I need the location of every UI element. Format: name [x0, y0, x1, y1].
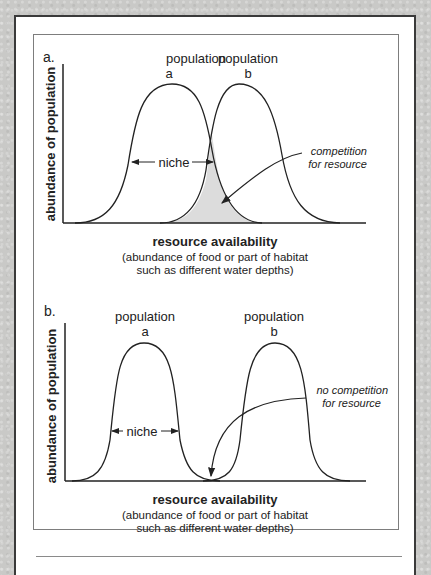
population-a-label: population	[115, 309, 175, 324]
x-axis-title: resource availability	[152, 234, 278, 249]
no-competition-annotation-line1: no competition	[316, 384, 388, 396]
x-axis-subtitle-line2: such as different water depths)	[136, 522, 293, 534]
population-a-letter: a	[141, 324, 149, 339]
x-axis-subtitle-line1: (abundance of food or part of habitat	[122, 251, 309, 263]
population-b-label: population	[244, 309, 304, 324]
panel-a-label: a.	[43, 49, 55, 65]
competition-annotation-line1: competition	[311, 145, 367, 157]
niche-label: niche	[158, 155, 189, 170]
panel-a: a. population a population b abundance o…	[43, 49, 367, 276]
panel-b-label: b.	[44, 303, 56, 319]
curve-population-a	[72, 343, 220, 481]
panel-b: b. population a population b abundance o…	[44, 303, 388, 534]
x-axis-subtitle-line1: (abundance of food or part of habitat	[122, 509, 309, 521]
curve-population-b	[203, 343, 350, 481]
population-a-letter: a	[165, 66, 173, 81]
no-competition-arrow-icon	[211, 398, 306, 476]
no-competition-annotation-line2: for resource	[322, 397, 381, 409]
x-axis-title: resource availability	[152, 492, 278, 507]
niche-label: niche	[126, 424, 157, 439]
population-b-letter: b	[270, 324, 277, 339]
population-a-label: population	[166, 51, 226, 66]
population-b-label: population	[218, 51, 278, 66]
x-axis-subtitle-line2: such as different water depths)	[136, 264, 293, 276]
y-axis-label: abundance of population	[44, 329, 59, 484]
competition-annotation-line2: for resource	[308, 158, 367, 170]
curve-population-a	[75, 84, 262, 223]
y-axis-label: abundance of population	[43, 67, 58, 222]
population-b-letter: b	[244, 66, 251, 81]
competition-arrow-icon	[222, 153, 302, 203]
